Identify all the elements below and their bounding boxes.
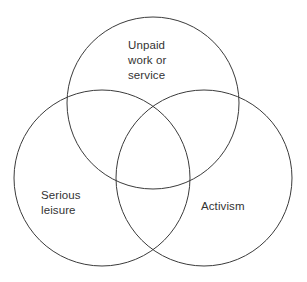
venn-circle-activism [116, 90, 292, 266]
venn-circle-serious-leisure [14, 90, 190, 266]
venn-diagram: Unpaid work or service Serious leisure A… [0, 0, 307, 282]
venn-label-serious-leisure: Serious leisure [41, 188, 81, 218]
venn-label-unpaid-work-or-service: Unpaid work or service [128, 38, 166, 83]
venn-label-activism: Activism [201, 199, 245, 214]
